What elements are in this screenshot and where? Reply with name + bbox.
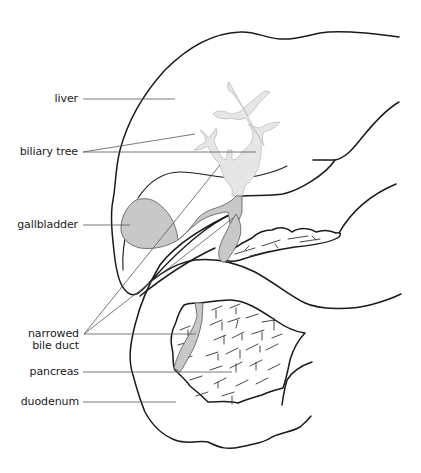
liver-fissure-line [138,166,287,198]
label-narrowed-bile-duct-line2: bile duct [0,340,79,352]
biliary-tree-shape [194,82,280,196]
label-pancreas: pancreas [0,366,79,378]
liver-lobe-contour [313,102,399,160]
label-liver: liver [20,93,78,105]
label-biliary-tree: biliary tree [0,146,78,158]
label-gallbladder: gallbladder [0,219,78,231]
stomach-curve [339,184,396,233]
duodenum-inner-right [282,362,312,405]
label-duodenum: duodenum [0,396,79,408]
duodenum-inner-top [150,260,401,309]
leader-biliary-tree-1 [83,134,195,152]
liver-lower-edge-2 [140,248,215,296]
biliary-anatomy-diagram: liver biliary tree gallbladder narrowed … [0,0,421,473]
